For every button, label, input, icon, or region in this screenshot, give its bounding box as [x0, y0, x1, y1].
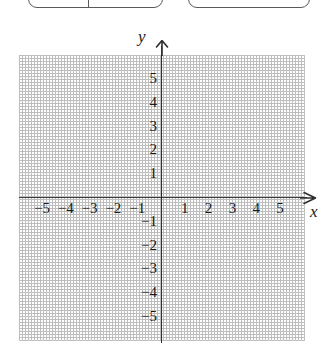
grid-line-horizontal	[19, 102, 305, 103]
x-tick-label: −3	[82, 201, 98, 216]
grid-area	[19, 55, 305, 341]
y-tick-label: 3	[135, 118, 157, 133]
grid-line-vertical	[185, 55, 186, 341]
y-tick-label: −5	[135, 309, 157, 324]
y-tick-label: 4	[135, 94, 157, 109]
x-tick-label: −2	[105, 201, 121, 216]
x-tick-label: 5	[276, 201, 284, 216]
y-tick-label: 2	[135, 142, 157, 157]
grid-line-horizontal	[19, 245, 305, 246]
grid-line-horizontal	[19, 292, 305, 293]
y-tick-label: −1	[135, 213, 157, 228]
grid-line-horizontal	[19, 173, 305, 174]
y-tick-label: −2	[135, 237, 157, 252]
x-tick-label: 3	[229, 201, 237, 216]
grid-line-vertical	[42, 55, 43, 341]
grid-line-vertical	[113, 55, 114, 341]
grid-line-vertical	[90, 55, 91, 341]
y-axis-arrow-icon	[154, 40, 170, 56]
grid-line-horizontal	[19, 340, 305, 341]
grid-line-horizontal	[19, 78, 305, 79]
y-tick-label: −3	[135, 261, 157, 276]
x-tick-label: 1	[181, 201, 189, 216]
grid-line-horizontal	[19, 316, 305, 317]
grid-line-horizontal	[19, 126, 305, 127]
y-tick-label: 1	[135, 166, 157, 181]
y-axis-line	[161, 46, 162, 343]
x-axis-line	[19, 197, 307, 198]
grid-line-horizontal	[19, 221, 305, 222]
grid-line-vertical	[256, 55, 257, 341]
grid-line-vertical	[232, 55, 233, 341]
x-tick-label: 4	[252, 201, 260, 216]
grid-line-vertical	[66, 55, 67, 341]
x-axis-label: x	[310, 203, 318, 220]
grid-line-vertical	[280, 55, 281, 341]
coordinate-plane: x y −5−4−3−2−11234554321−1−2−3−4−5	[0, 0, 332, 356]
x-tick-label: 2	[205, 201, 213, 216]
grid-line-horizontal	[19, 268, 305, 269]
x-tick-label: −5	[34, 201, 50, 216]
y-tick-label: −4	[135, 285, 157, 300]
grid-line-vertical	[209, 55, 210, 341]
y-tick-label: 5	[135, 71, 157, 86]
y-axis-label: y	[138, 28, 146, 45]
x-tick-label: −4	[58, 201, 74, 216]
grid-line-horizontal	[19, 149, 305, 150]
dotted-grid	[19, 55, 305, 341]
